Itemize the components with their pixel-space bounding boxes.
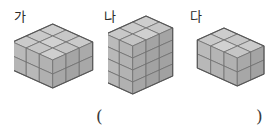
answer-close-paren: ) bbox=[256, 108, 263, 125]
worksheet-canvas: 가 bbox=[0, 0, 280, 135]
answer-open-paren: ( bbox=[96, 108, 103, 125]
cube-stack-ga bbox=[14, 22, 106, 96]
figure-label-da: 다 bbox=[190, 10, 202, 23]
cube-stack-da bbox=[192, 26, 278, 96]
answer-blank[interactable]: ( ) bbox=[0, 104, 280, 132]
cube-stack-na bbox=[108, 14, 188, 96]
